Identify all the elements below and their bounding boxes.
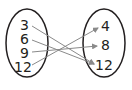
arrow-6-to-12 — [32, 40, 94, 64]
range-value-12: 12 — [95, 57, 113, 73]
mapping-diagram: 3 6 9 12 4 8 12 — [0, 0, 132, 90]
range-value-8: 8 — [101, 37, 110, 53]
domain-value-12: 12 — [14, 59, 32, 75]
range-value-4: 4 — [101, 18, 110, 34]
